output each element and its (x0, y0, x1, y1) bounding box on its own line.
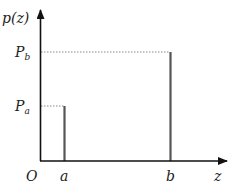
origin-label: O (26, 168, 38, 184)
diagram: p(z) Pb Pa O a b z (0, 0, 237, 187)
b-tick-label: b (166, 168, 175, 184)
a-tick-label: a (60, 168, 68, 184)
pa-label: Pa (14, 98, 30, 116)
pb-label: Pb (14, 44, 30, 62)
x-axis-label: z (213, 168, 222, 184)
y-axis-label: p(z) (2, 10, 29, 26)
